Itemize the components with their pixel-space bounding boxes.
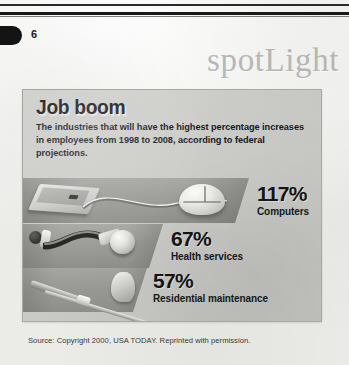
page-thumb-tab [0, 26, 22, 45]
page-number: 6 [31, 28, 37, 40]
value-residential-maintenance: 57% [153, 270, 193, 291]
bar-row-computers: 117% Computers [23, 178, 321, 223]
bar-shading [23, 224, 163, 268]
label-residential-maintenance: Residential maintenance [153, 294, 268, 304]
source-credit: Source: Copyright 2000, USA TODAY. Repri… [28, 336, 250, 345]
magazine-page: 6 spotLight Job boom The industries that… [0, 0, 349, 365]
label-computers: Computers [257, 207, 309, 217]
infographic-panel: Job boom The industries that will have t… [22, 89, 322, 322]
infographic-title: Job boom [36, 95, 125, 119]
value-health-services: 67% [171, 228, 211, 249]
top-rule-thin [0, 4, 349, 6]
label-health-services: Health services [171, 252, 243, 262]
bar-computers [23, 178, 249, 223]
top-rule-thick [0, 12, 349, 15]
bar-shading [23, 268, 147, 312]
bar-row-health-services: 67% Health services [23, 224, 321, 268]
value-computers: 117% [257, 183, 307, 204]
bar-residential-maintenance [23, 268, 147, 312]
top-rule-hairline [0, 16, 349, 17]
infographic-subtitle: The industries that will have the highes… [36, 121, 304, 160]
section-masthead: spotLight [207, 44, 339, 77]
bar-shading [23, 178, 249, 223]
bar-row-residential-maintenance: 57% Residential maintenance [23, 268, 321, 316]
bar-health-services [23, 224, 163, 268]
